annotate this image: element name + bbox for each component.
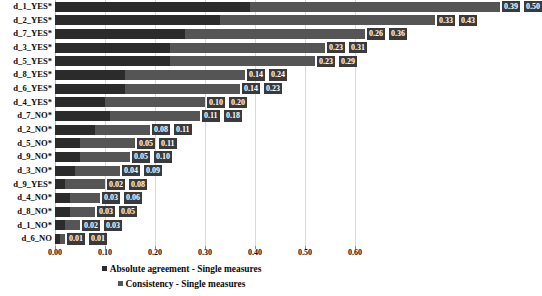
bar-row: 0.230.29 [55,55,355,69]
stacked-bar [55,125,150,135]
data-label-consistency: 0.10 [154,151,172,162]
data-label-absolute-agreement: 0.01 [67,233,85,244]
category-label: d_3_YES* [0,41,52,55]
bar-row: 0.080.11 [55,123,355,137]
bar-segment-consistency [110,111,200,121]
bar-row: 0.110.18 [55,109,355,123]
x-tick-label: 0.20 [148,248,162,257]
data-label-absolute-agreement: 0.08 [152,124,170,135]
category-label: d_4_YES* [0,96,52,110]
data-label-absolute-agreement: 0.39 [502,1,520,12]
bar-row: 0.020.08 [55,178,355,192]
bar-segment-consistency [65,179,105,189]
bar-segment-absolute-agreement [55,56,170,66]
data-label-consistency: 0.18 [224,110,242,121]
data-label-absolute-agreement: 0.11 [202,110,220,121]
data-label-absolute-agreement: 0.04 [122,165,140,176]
data-label-consistency: 0.08 [129,179,147,190]
bar-segment-absolute-agreement [55,29,185,39]
category-label: d_9_YES* [0,178,52,192]
data-label-absolute-agreement: 0.14 [247,69,265,80]
bar-segment-consistency [70,207,95,217]
bar-row: 0.030.05 [55,205,355,219]
bar-row: 0.040.09 [55,164,355,178]
x-axis: 0.000.100.200.300.400.500.60 [55,246,355,260]
stacked-bar [55,138,135,148]
stacked-bar [55,193,100,203]
stacked-bar [55,97,205,107]
stacked-bar [55,43,325,53]
bar-segment-consistency [185,29,365,39]
bar-segment-absolute-agreement [55,138,80,148]
bar-segment-consistency [70,193,100,203]
category-label: d_6_NO [0,232,52,246]
data-label-consistency: 0.03 [104,220,122,231]
x-tick-label: 0.00 [48,248,62,257]
bar-segment-absolute-agreement [55,97,105,107]
category-label: d_1_YES* [0,0,52,14]
bar-row: 0.030.06 [55,191,355,205]
stacked-bar [55,220,80,230]
category-label: d_2_NO* [0,123,52,137]
bar-row: 0.140.23 [55,82,355,96]
data-label-consistency: 0.06 [124,192,142,203]
data-label-consistency: 0.11 [159,138,177,149]
category-label: d_3_NO* [0,164,52,178]
bar-row: 0.010.01 [55,232,355,246]
legend-item[interactable]: Consistency - Single measures [0,277,363,292]
category-label: d_7_NO* [0,109,52,123]
bar-row: 0.390.50 [55,0,355,14]
category-label: d_5_NO* [0,137,52,151]
data-label-consistency: 0.05 [119,206,137,217]
legend-item[interactable]: Absolute agreement - Single measures [0,262,363,277]
data-label-absolute-agreement: 0.02 [82,220,100,231]
category-label: d_1_NO* [0,219,52,233]
stacked-bar [55,2,500,12]
category-label: d_7_YES* [0,27,52,41]
bar-segment-absolute-agreement [55,207,70,217]
bar-segment-consistency [80,152,130,162]
data-label-consistency: 0.24 [269,69,287,80]
data-label-consistency: 0.09 [144,165,162,176]
bar-segment-consistency [65,220,80,230]
bar-segment-consistency [170,43,325,53]
x-tick-label: 0.40 [248,248,262,257]
bar-row: 0.260.36 [55,27,355,41]
data-label-consistency: 0.31 [349,42,367,53]
bar-segment-absolute-agreement [55,70,125,80]
data-label-consistency: 0.01 [89,233,107,244]
data-label-absolute-agreement: 0.23 [317,56,335,67]
data-label-absolute-agreement: 0.23 [327,42,345,53]
bar-segment-absolute-agreement [55,125,95,135]
data-label-consistency: 0.23 [264,83,282,94]
stacked-bar [55,15,435,25]
data-label-absolute-agreement: 0.26 [367,28,385,39]
bar-segment-absolute-agreement [55,43,170,53]
stacked-bar [55,29,365,39]
bar-row: 0.100.20 [55,96,355,110]
stacked-bar [55,179,105,189]
bar-segment-absolute-agreement [55,193,70,203]
bar-segment-absolute-agreement [55,152,80,162]
bar-row: 0.140.24 [55,68,355,82]
stacked-bar [55,70,245,80]
data-label-consistency: 0.11 [174,124,192,135]
bar-segment-absolute-agreement [55,111,110,121]
category-label: d_5_YES* [0,55,52,69]
bar-segment-absolute-agreement [55,15,220,25]
bar-row: 0.020.03 [55,219,355,233]
stacked-bar [55,166,120,176]
data-label-consistency: 0.50 [524,1,542,12]
bar-segment-absolute-agreement [55,84,125,94]
stacked-bar [55,234,65,244]
data-label-consistency: 0.29 [339,56,357,67]
bar-segment-consistency [95,125,150,135]
bar-segment-consistency [125,70,245,80]
x-tick-label: 0.30 [198,248,212,257]
stacked-bar [55,56,315,66]
bar-segment-absolute-agreement [55,220,65,230]
bar-segment-consistency [125,84,240,94]
stacked-bar [55,84,240,94]
bar-segment-consistency [105,97,205,107]
